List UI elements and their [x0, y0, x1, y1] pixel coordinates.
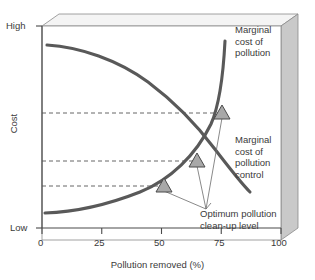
slab-right-face	[281, 14, 298, 240]
y-tick-high: High	[6, 21, 26, 31]
annotation-marginal-cost-of-pollution-control: Marginal cost of pollution control	[235, 134, 271, 180]
annotation-optimum-cleanup-level: Optimum pollution clean-up level	[200, 208, 277, 231]
pollution-cost-chart-figure: High Low Cost 0 25 50 75 100 Pollution r…	[0, 0, 315, 280]
x-axis-title: Pollution removed (%)	[0, 259, 315, 270]
x-tick-75: 75	[214, 238, 225, 248]
x-tick-100: 100	[271, 238, 287, 248]
y-axis-ticks	[36, 26, 42, 228]
x-tick-25: 25	[94, 238, 105, 248]
y-tick-low: Low	[10, 223, 27, 233]
y-axis-title: Cost	[8, 101, 19, 147]
x-tick-50: 50	[154, 238, 165, 248]
x-tick-0: 0	[38, 238, 43, 248]
annotation-marginal-cost-of-pollution: Marginal cost of pollution	[235, 24, 271, 59]
